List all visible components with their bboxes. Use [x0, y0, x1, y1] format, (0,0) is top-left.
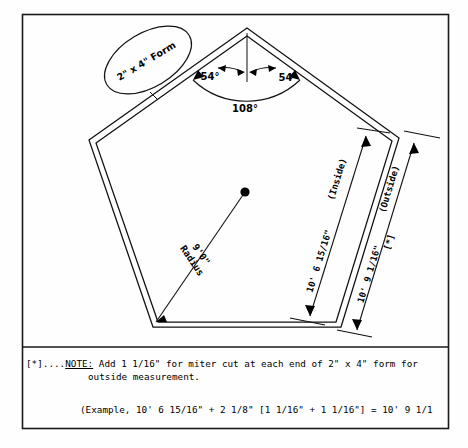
inside-arrow-top — [361, 136, 371, 147]
outside-ext-line-bottom — [337, 330, 372, 337]
outside-ext-line-top — [404, 131, 440, 138]
form-callout-label: 2" x 4" Form — [115, 39, 178, 83]
outside-caption-group: (Outside) — [377, 164, 401, 214]
outside-value-group: 10' 9 1/16" — [356, 244, 383, 304]
angle-arrow-right-54-start — [249, 69, 257, 76]
outside-dimension-value: 10' 9 1/16" — [356, 244, 383, 304]
outside-arrow-bottom — [352, 319, 362, 330]
inside-ext-line-top — [357, 128, 390, 133]
drawing-sheet: 9'0" Radius 54° 54° 108° 2" x 4" Form 10… — [0, 0, 468, 448]
angle-arrow-left-54-end — [237, 69, 245, 76]
pentagon-inner-edge — [96, 36, 392, 322]
angle-label-interior: 108° — [232, 103, 258, 114]
radius-arrowhead — [156, 315, 167, 322]
outside-dimension-caption: (Outside) — [377, 164, 401, 214]
note-block: [*]....NOTE: Add 1 1/16" for miter cut a… — [26, 358, 418, 383]
note-keyword: NOTE: — [65, 358, 93, 369]
example-block: (Example, 10' 6 15/16" + 2 1/8" [1 1/16"… — [26, 404, 433, 417]
inside-value-group: 10' 6 15/16" — [305, 229, 334, 294]
angle-arc-108 — [193, 80, 300, 101]
example-text: (Example, 10' 6 15/16" + 2 1/8" [1 1/16"… — [80, 404, 433, 415]
note-marker: [*].... — [26, 358, 65, 369]
outside-marker-group: [*] — [382, 233, 396, 251]
angle-arrow-right-54-end — [268, 65, 276, 72]
inside-arrow-bottom — [305, 305, 315, 316]
note-text-second-line: outside measurement. — [88, 371, 200, 382]
inside-dimension-caption: (Inside) — [326, 157, 348, 201]
outside-arrow-top — [409, 143, 419, 154]
inside-caption-group: (Inside) — [326, 157, 348, 201]
outside-dimension-marker: [*] — [382, 233, 396, 251]
inside-dimension-value: 10' 6 15/16" — [305, 229, 334, 294]
note-text-first-line: Add 1 1/16" for miter cut at each end of… — [93, 358, 418, 369]
